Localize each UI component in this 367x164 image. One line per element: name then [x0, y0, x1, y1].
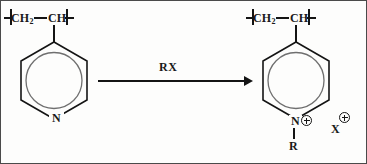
counterion-charge-icon: [339, 112, 350, 123]
product-bracket-left: [252, 9, 254, 25]
reactant-bracket-left: [10, 9, 12, 25]
nitrogen-positive-charge-icon: [301, 115, 312, 126]
reactant-backbone-bond: [34, 17, 47, 19]
reagent-label: RX: [159, 61, 178, 73]
reactant-ch2-label: CH2: [11, 12, 34, 26]
reactant-pyridine-ring: [18, 40, 90, 122]
reactant-bracket-right-stub: [65, 17, 74, 19]
product-ch2-subscript: 2: [271, 17, 275, 26]
reactant-ch-label: CH: [48, 12, 66, 24]
product-backbone-bond: [276, 17, 289, 19]
product-ch-label: CH: [290, 12, 308, 24]
product-bracket-right-stub: [307, 17, 316, 19]
product-pyridinium-ring: [260, 40, 332, 122]
arrow-head: [244, 76, 253, 86]
reactant-nitrogen-label: N: [49, 112, 64, 124]
arrow-shaft: [98, 80, 246, 82]
reaction-scheme-figure: CH2 CH N RX CH2 CH: [0, 0, 367, 164]
product-ch2-label: CH2: [253, 12, 276, 26]
reactant-ch2-subscript: 2: [29, 17, 33, 26]
counterion-label: X: [331, 123, 340, 135]
product-r-substituent-label: R: [289, 140, 298, 152]
product-n-r-bond: [293, 128, 295, 139]
product-nitrogen-label: N: [289, 115, 302, 127]
